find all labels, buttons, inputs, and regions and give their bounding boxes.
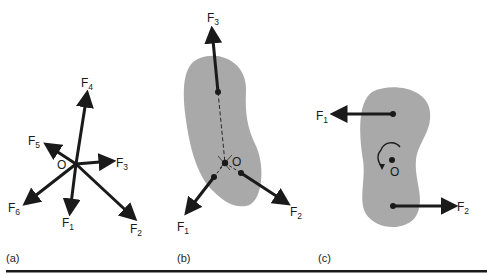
force-label-f1: F1 xyxy=(177,220,189,236)
force-label-f6: F6 xyxy=(8,201,20,217)
force-label-f1: F1 xyxy=(316,109,328,125)
panel-b: O F3 F1 F2 (b) xyxy=(177,11,302,264)
force-arrow-f6 xyxy=(26,164,76,203)
point-of-application-f3 xyxy=(215,89,221,95)
force-label-f1: F1 xyxy=(62,216,74,232)
bottom-rule xyxy=(6,270,487,273)
point-of-application-f1 xyxy=(211,174,217,180)
force-arrow-f3 xyxy=(76,161,112,164)
force-label-f2: F2 xyxy=(130,222,142,238)
point-of-application-f2 xyxy=(390,203,396,209)
point-of-application-f2 xyxy=(238,170,244,176)
origin-label-c: O xyxy=(390,165,399,179)
force-diagram: O F4 F5 F3 F6 F1 F2 (a) O F3 F1 F2 (b) xyxy=(0,0,487,276)
panel-caption-b: (b) xyxy=(177,252,190,264)
point-of-application-f1 xyxy=(390,111,396,117)
origin-label-a: O xyxy=(57,158,66,172)
origin-label-b: O xyxy=(232,155,241,169)
panel-a: O F4 F5 F3 F6 F1 F2 (a) xyxy=(6,76,142,264)
rigid-body-b xyxy=(184,56,262,207)
origin-point-b xyxy=(222,160,228,166)
force-label-f5: F5 xyxy=(28,134,40,150)
force-label-f4: F4 xyxy=(81,76,93,92)
force-arrow-f1 xyxy=(187,177,214,212)
force-arrow-f1 xyxy=(70,164,76,212)
origin-point-c xyxy=(389,157,395,163)
force-label-f2: F2 xyxy=(457,200,469,216)
panel-caption-a: (a) xyxy=(6,252,19,264)
panel-c: O F1 F2 (c) xyxy=(316,87,469,264)
panel-caption-c: (c) xyxy=(318,252,331,264)
force-arrow-f2 xyxy=(76,164,134,218)
force-label-f3: F3 xyxy=(116,156,128,172)
force-label-f3: F3 xyxy=(207,11,219,27)
force-arrow-f4 xyxy=(76,94,87,164)
force-label-f2: F2 xyxy=(290,205,302,221)
